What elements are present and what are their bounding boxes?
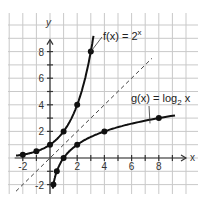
y-axis-label: y — [45, 17, 52, 28]
svg-text:-2: -2 — [35, 180, 44, 191]
svg-text:8: 8 — [38, 47, 44, 58]
graph: -22468-22468 x y f(x) = 2x g(x) = log2 x — [0, 0, 207, 208]
svg-text:2: 2 — [74, 161, 80, 172]
svg-text:6: 6 — [129, 161, 135, 172]
svg-text:2: 2 — [38, 126, 44, 137]
svg-text:8: 8 — [156, 161, 162, 172]
curve-g-logarithm — [53, 115, 175, 188]
x-axis-label: x — [190, 152, 195, 163]
svg-text:-2: -2 — [18, 161, 27, 172]
svg-text:4: 4 — [102, 161, 108, 172]
curve-f-exponential — [16, 36, 94, 156]
svg-text:6: 6 — [38, 73, 44, 84]
svg-text:4: 4 — [38, 100, 44, 111]
label-f: f(x) = 2x — [103, 28, 142, 42]
